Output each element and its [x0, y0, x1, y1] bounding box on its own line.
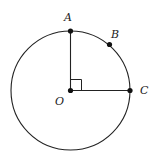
- point-b: [107, 42, 112, 47]
- point-a: [68, 28, 73, 33]
- label-a: A: [63, 11, 72, 24]
- circle-diagram: A B C O: [0, 0, 153, 165]
- point-c: [127, 88, 132, 93]
- label-b: B: [110, 28, 119, 41]
- label-o: O: [55, 95, 64, 108]
- point-o: [68, 88, 73, 93]
- label-c: C: [140, 84, 149, 97]
